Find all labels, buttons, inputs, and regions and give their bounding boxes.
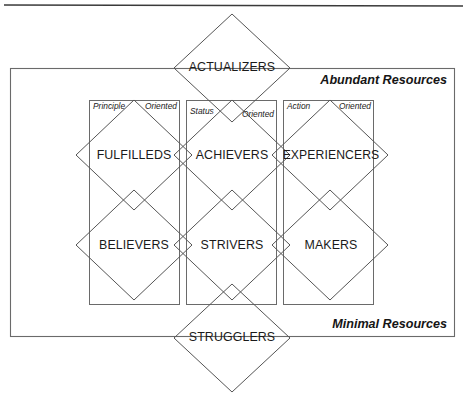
orientation-label-status-left: Status [190, 106, 215, 116]
orientation-label-principle-left: Principle [93, 101, 125, 111]
label-abundant-resources: Abundant Resources [319, 73, 447, 87]
orientation-label-action-right: Oriented [339, 101, 371, 111]
vals-diagram-canvas: Principle Oriented Status Oriented Actio… [0, 0, 467, 402]
orientation-label-principle-right: Oriented [145, 101, 177, 111]
page-rule [4, 5, 463, 6]
segment-makers[interactable] [272, 190, 388, 300]
orientation-label-action-left: Action [286, 101, 311, 111]
segment-strugglers[interactable] [174, 284, 290, 392]
label-minimal-resources: Minimal Resources [332, 317, 447, 331]
vals-framework-diagram: Principle Oriented Status Oriented Actio… [0, 0, 467, 402]
